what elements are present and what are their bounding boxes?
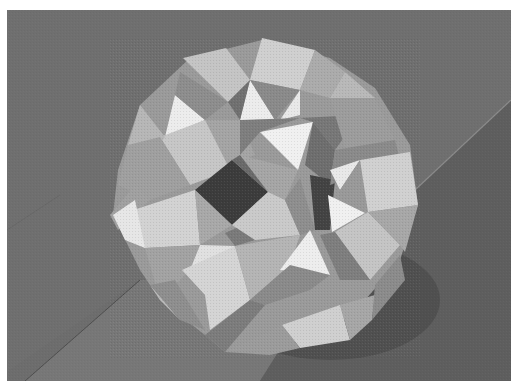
polyhedron-photo — [7, 10, 511, 381]
photo-frame — [7, 10, 511, 381]
